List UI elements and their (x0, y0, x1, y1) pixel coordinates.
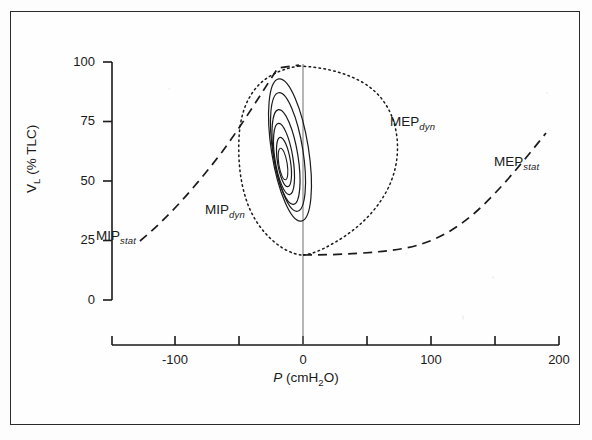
y-axis-title-units: (% TLC) (24, 125, 39, 175)
y-axis (103, 62, 112, 300)
x-axis-title-units: (cmH (286, 370, 318, 385)
y-tick-label-25: 25 (55, 232, 95, 247)
x-axis-title: P (cmH2O) (236, 370, 376, 388)
tidal-loop-1 (260, 76, 319, 224)
tidal-breathing-loops (260, 76, 319, 224)
curve-label-mip-stat-text: MIP (96, 228, 120, 243)
curve-label-mip-dyn: MIPdyn (205, 202, 245, 220)
curve-label-mip-dyn-sub: dyn (229, 209, 245, 220)
y-tick-label-0: 0 (55, 292, 95, 307)
curve-label-mip-stat-sub: stat (120, 235, 136, 246)
figure-container: 100 75 50 25 0 -100 0 100 200 P (cmH2O) … (0, 0, 592, 440)
curve-label-mep-stat: MEPstat (494, 154, 539, 172)
curve-mep-stat (303, 133, 546, 255)
x-axis (112, 336, 559, 345)
x-axis-title-units-end: O) (324, 370, 339, 385)
y-axis-title-symbol: V (24, 184, 39, 193)
curve-label-mep-stat-text: MEP (494, 154, 523, 169)
x-tick-label-0: 0 (273, 352, 333, 367)
y-tick-label-50: 50 (55, 173, 95, 188)
y-tick-label-75: 75 (55, 113, 95, 128)
curve-label-mep-dyn: MEPdyn (390, 114, 435, 132)
curve-label-mep-dyn-text: MEP (390, 114, 419, 129)
y-axis-title-sub: L (31, 179, 42, 184)
curve-mep-dyn (299, 66, 398, 255)
curve-label-mep-dyn-sub: dyn (419, 121, 435, 132)
y-tick-label-100: 100 (55, 54, 95, 69)
curve-label-mip-dyn-text: MIP (205, 202, 229, 217)
x-tick-label-200: 200 (529, 352, 589, 367)
x-tick-label-100: 100 (401, 352, 461, 367)
x-tick-label-minus100: -100 (145, 352, 205, 367)
curve-label-mep-stat-sub: stat (523, 161, 539, 172)
tidal-loop-5 (274, 136, 295, 187)
curve-label-mip-stat: MIPstat (96, 228, 136, 246)
x-axis-title-symbol: P (273, 370, 282, 385)
y-axis-title: VL (% TLC) (24, 89, 42, 229)
